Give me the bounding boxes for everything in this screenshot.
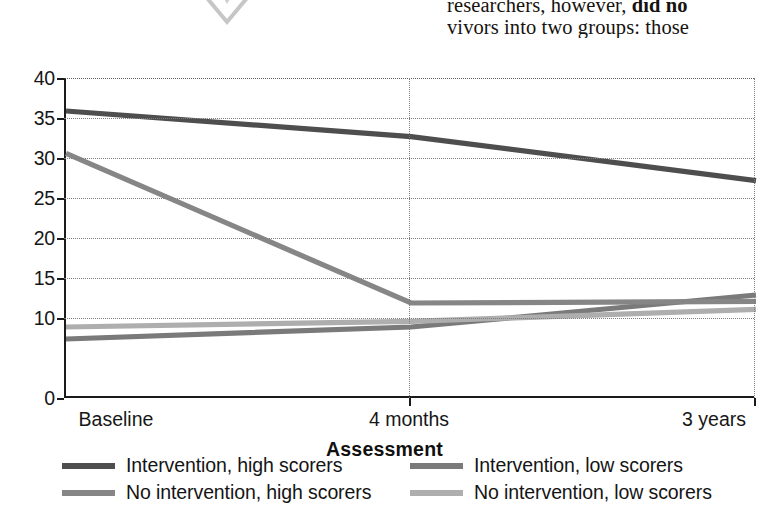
double-chevron-down-icon [173, 0, 281, 58]
y-tick-mark [57, 158, 64, 160]
body-text-line-1: researchers, however, did no [447, 0, 769, 16]
x-tick-mark [409, 398, 411, 406]
legend-label: No intervention, low scorers [474, 481, 712, 504]
legend-item: No intervention, low scorers [410, 479, 712, 506]
x-tick-mark [754, 398, 756, 406]
line-chart: 010152025303540 Baseline4 months3 years … [0, 62, 769, 410]
y-tick-mark [57, 238, 64, 240]
y-tick-mark [57, 78, 64, 80]
legend-color-swatch [62, 490, 115, 496]
x-tick-label: 4 months [369, 408, 449, 431]
y-tick-mark [57, 198, 64, 200]
x-tick-label: Baseline [79, 408, 154, 431]
y-tick-label: 15 [11, 267, 55, 290]
y-tick-mark [57, 398, 64, 400]
x-tick-label: 3 years [682, 408, 746, 431]
legend-item: No intervention, high scorers [62, 479, 371, 506]
y-tick-label: 25 [11, 187, 55, 210]
y-tick-mark [57, 278, 64, 280]
chart-legend: Intervention, high scorersIntervention, … [0, 452, 769, 510]
series-line [66, 153, 756, 303]
series-layer [66, 79, 756, 399]
body-text-line-1-bold: did no [632, 0, 688, 16]
body-text-line-1-plain: researchers, however, [447, 0, 632, 16]
y-tick-label: 40 [11, 67, 55, 90]
gridline-vertical [409, 78, 410, 398]
page-body-text: researchers, however, did no vivors into… [447, 0, 769, 38]
y-tick-label: 20 [11, 227, 55, 250]
y-tick-label: 30 [11, 147, 55, 170]
y-tick-label: 35 [11, 107, 55, 130]
legend-color-swatch [410, 490, 463, 496]
body-text-line-2: vivors into two groups: those [447, 16, 769, 38]
gridline-vertical [754, 78, 755, 398]
legend-item: Intervention, low scorers [410, 452, 683, 479]
y-tick-mark [57, 118, 64, 120]
legend-label: Intervention, high scorers [126, 454, 342, 477]
legend-color-swatch [62, 463, 115, 469]
legend-color-swatch [410, 463, 463, 469]
legend-item: Intervention, high scorers [62, 452, 342, 479]
legend-label: No intervention, high scorers [126, 481, 371, 504]
legend-label: Intervention, low scorers [474, 454, 683, 477]
y-tick-label: 0 [11, 387, 55, 410]
series-line [66, 111, 756, 181]
y-tick-label: 10 [11, 307, 55, 330]
y-tick-mark [57, 318, 64, 320]
